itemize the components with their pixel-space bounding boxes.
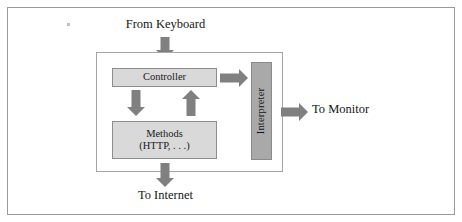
arrow-shaft — [161, 163, 170, 179]
arrow-head — [182, 90, 200, 99]
node-methods-label-line-1: Methods — [146, 128, 183, 140]
node-methods-label-line-2: (HTTP, . . .) — [139, 140, 189, 152]
arrow-methods-to-internet-down-icon — [155, 163, 175, 187]
label-to-monitor: To Monitor — [312, 102, 369, 117]
arrow-shaft — [132, 90, 141, 108]
arrow-shaft — [161, 37, 170, 51]
label-to-internet: To Internet — [108, 188, 223, 203]
arrow-head — [156, 178, 174, 187]
arrow-head — [299, 103, 308, 121]
label-from-keyboard: From Keyboard — [108, 17, 223, 32]
arrow-head — [127, 107, 145, 116]
arrow-methods-to-controller-up-icon — [181, 90, 201, 116]
scan-artifact-speck — [67, 23, 70, 26]
node-methods: Methods (HTTP, . . .) — [112, 121, 217, 159]
arrow-shaft — [220, 74, 240, 83]
arrow-head — [239, 69, 248, 87]
diagram-canvas: From Keyboard Controller Methods (HTTP, … — [0, 0, 462, 222]
arrow-shaft — [281, 108, 300, 117]
arrow-controller-to-methods-down-icon — [126, 90, 146, 116]
node-controller-label: Controller — [143, 71, 186, 83]
arrow-controller-to-interpreter-right-icon — [220, 68, 248, 88]
arrow-interpreter-to-monitor-right-icon — [281, 102, 308, 122]
node-interpreter-label: Interpreter — [255, 88, 267, 135]
node-interpreter: Interpreter — [251, 62, 272, 160]
node-controller: Controller — [112, 68, 217, 87]
arrow-shaft — [187, 98, 196, 116]
